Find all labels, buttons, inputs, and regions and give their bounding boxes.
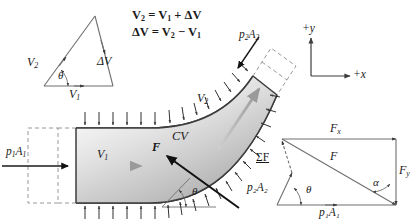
polygon-outlet-pressure-label: p₂A₂ <box>247 182 268 194</box>
force-y-label: Fy <box>399 164 410 178</box>
triangle-label-theta: θ <box>58 70 63 81</box>
triangle-label-v2: V2 <box>27 56 38 70</box>
axis-label-y: +y <box>302 23 315 35</box>
fluid-mechanics-figure: V2 ΔV θ V1 V2 = V1 + ΔV ΔV = V2 − V1 +y … <box>0 0 416 223</box>
equation-line-2: ΔV = V2 − V1 <box>132 24 201 41</box>
inlet-velocity-label: V1 <box>97 148 108 162</box>
polygon-theta-label: θ <box>306 184 311 195</box>
outlet-velocity-label: V2 <box>197 92 208 106</box>
velocity-triangle-graphic <box>44 16 113 86</box>
cv-label: CV <box>172 130 188 143</box>
outlet-pressure-label: p2A2 <box>239 29 259 41</box>
sum-force-label: ΣF <box>256 152 269 164</box>
triangle-label-delta-v: ΔV <box>97 55 111 67</box>
triangle-label-v1: V1 <box>69 88 80 102</box>
force-resultant-label: F <box>330 150 337 162</box>
bend-angle-label: θ <box>192 186 197 197</box>
force-x-label: Fx <box>330 122 341 136</box>
polygon-alpha-label: α <box>373 177 379 188</box>
inlet-pressure-label: p1A1 <box>6 146 26 158</box>
reaction-force-label: F <box>152 141 160 154</box>
coordinate-axes-graphic <box>311 38 350 76</box>
equation-line-1: V2 = V1 + ΔV <box>132 7 201 24</box>
figure-vector-graphics <box>0 0 416 223</box>
polygon-inlet-pressure-label: p₁A₁ <box>319 207 340 219</box>
axis-label-x: +x <box>353 69 366 81</box>
